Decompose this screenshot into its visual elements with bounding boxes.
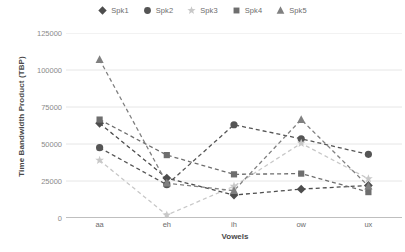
data-point-spk4-aa <box>97 116 103 122</box>
triangle-marker-icon <box>276 6 285 15</box>
legend-label: Spk4 <box>245 6 263 15</box>
legend-item-spk1[interactable]: Spk1 <box>98 6 129 15</box>
y-tick-label: 25000 <box>4 177 62 186</box>
legend-item-spk4[interactable]: Spk4 <box>232 6 263 15</box>
data-point-spk4-eh <box>164 152 170 158</box>
legend-item-spk3[interactable]: Spk3 <box>187 6 218 15</box>
series-line-spk3 <box>100 143 369 215</box>
y-tick-label: 100000 <box>4 66 62 75</box>
data-point-spk3-eh <box>162 210 171 218</box>
data-point-spk2-aa <box>96 144 103 151</box>
data-point-spk4-ow <box>298 171 304 177</box>
chart-container: Spk1Spk2Spk3Spk4Spk5 Time Bandwidth Prod… <box>0 0 405 252</box>
legend-label: Spk5 <box>289 6 307 15</box>
diamond-marker-icon <box>98 6 107 15</box>
data-point-spk2-ih <box>230 121 237 128</box>
data-point-spk5-aa <box>96 55 104 63</box>
y-axis-ticks: 0250005000075000100000125000 <box>0 0 62 252</box>
y-tick-label: 75000 <box>4 103 62 112</box>
data-point-spk4-ux <box>365 189 371 195</box>
data-point-spk5-ow <box>297 115 305 123</box>
y-tick-label: 50000 <box>4 140 62 149</box>
legend-label: Spk3 <box>200 6 218 15</box>
y-tick-label: 125000 <box>4 29 62 38</box>
data-point-spk1-ow <box>297 185 306 194</box>
legend-item-spk2[interactable]: Spk2 <box>143 6 174 15</box>
legend-item-spk5[interactable]: Spk5 <box>276 6 307 15</box>
data-point-spk2-ux <box>365 151 372 158</box>
data-point-spk4-ih <box>231 171 237 177</box>
legend-label: Spk1 <box>111 6 129 15</box>
square-marker-icon <box>232 6 241 15</box>
star-marker-icon <box>187 6 196 15</box>
legend-label: Spk2 <box>156 6 174 15</box>
circle-marker-icon <box>143 6 152 15</box>
plot-svg <box>66 33 402 218</box>
y-tick-label: 0 <box>4 214 62 223</box>
plot-area <box>66 33 402 218</box>
x-axis-title: Vowels <box>65 232 405 241</box>
